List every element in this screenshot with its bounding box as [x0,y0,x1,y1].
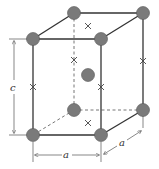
atom-back-top-left [68,7,81,20]
atom-front-bottom-right [95,129,108,142]
dimension-a-front: a [33,142,101,162]
atom-front-bottom-left [27,129,40,142]
label-a-front: a [63,149,69,160]
cross-icon [85,120,91,126]
label-c: c [10,82,16,93]
atom-front-top-left [27,33,40,46]
cross-icon [85,23,91,29]
atom-front-top-right [95,33,108,46]
atom-back-top-right [137,7,150,20]
atoms [27,7,150,142]
atom-back-bottom-left [68,104,81,117]
atom-back-bottom-right [137,104,150,117]
dimension-c: c [9,39,27,135]
unit-cell-diagram: c a a [0,0,159,169]
label-a-side: a [119,137,125,148]
atom-body-center [82,69,95,82]
